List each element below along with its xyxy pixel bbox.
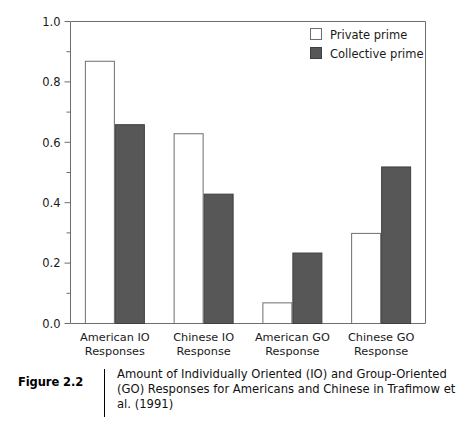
y-axis-tick-label: 0.2 (42, 256, 60, 270)
figure-container: 0.00.20.40.60.81.0American IOResponsesCh… (0, 0, 467, 433)
bars-group (85, 61, 410, 323)
bar-private-prime (263, 303, 292, 324)
bar-collective-prime (115, 125, 144, 324)
x-axis-category-label: Response (265, 345, 319, 358)
figure-caption-block: Figure 2.2 Amount of Individually Orient… (0, 367, 467, 433)
y-axis-tick-label: 0.4 (42, 196, 60, 210)
x-axis-category-label: Response (176, 345, 230, 358)
x-axis-category-label: American IO (80, 331, 150, 344)
legend-label: Private prime (330, 28, 407, 42)
x-axis-category-label: Chinese GO (348, 331, 414, 344)
x-axis-category-label: Response (354, 345, 408, 358)
y-axis-tick-label: 0.0 (42, 317, 60, 331)
bar-collective-prime (293, 253, 322, 323)
x-axis-category-label: Responses (85, 345, 145, 358)
x-axis-category-label: Chinese IO (173, 331, 234, 344)
bar-private-prime (85, 61, 114, 323)
collective-prime-swatch (311, 48, 322, 59)
caption-divider (104, 369, 105, 417)
figure-caption-text: Amount of Individually Oriented (IO) and… (117, 367, 462, 413)
figure-number-label: Figure 2.2 (18, 375, 83, 389)
private-prime-swatch (311, 29, 322, 40)
y-axis-tick-label: 0.6 (42, 136, 60, 150)
bar-chart: 0.00.20.40.60.81.0American IOResponsesCh… (0, 0, 467, 365)
bar-private-prime (352, 233, 381, 323)
bar-private-prime (174, 134, 203, 324)
bar-collective-prime (204, 194, 233, 323)
chart-svg: 0.00.20.40.60.81.0American IOResponsesCh… (0, 0, 467, 365)
y-axis-tick-label: 0.8 (42, 75, 60, 89)
bar-collective-prime (382, 167, 411, 324)
legend-label: Collective prime (330, 47, 424, 61)
x-axis-category-label: American GO (255, 331, 330, 344)
chart-legend: Private primeCollective prime (311, 28, 424, 61)
y-axis-tick-label: 1.0 (42, 15, 60, 29)
